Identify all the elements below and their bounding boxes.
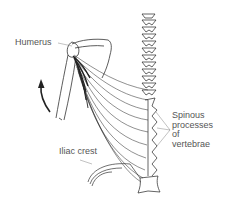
spinous-leader-line-3 <box>157 130 170 146</box>
humerus-bone <box>56 42 79 120</box>
label-spinous-line-4: vertebrae <box>172 140 213 150</box>
label-spinous-processes: Spinous processes of vertebrae <box>172 111 213 149</box>
latissimus-dorsi-muscle <box>73 55 148 182</box>
sacrum <box>138 176 160 193</box>
label-iliac-crest: Iliac crest <box>59 147 97 157</box>
spinous-leader-line-2 <box>157 128 170 130</box>
motion-arrow-icon <box>38 79 50 112</box>
iliac-crest-leader-line <box>80 160 92 164</box>
spinous-leader-line-1 <box>156 112 170 130</box>
vertebral-column <box>142 14 157 176</box>
label-humerus: Humerus <box>15 38 52 48</box>
anatomy-diagram <box>0 0 225 200</box>
